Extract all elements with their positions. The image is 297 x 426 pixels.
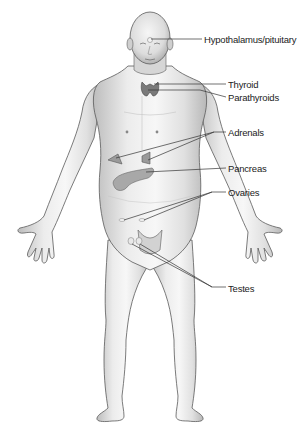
label-parathyroids: Parathyroids [228,93,279,103]
label-thyroid: Thyroid [228,80,258,90]
label-hypothalamus-pituitary: Hypothalamus/pituitary [204,35,296,45]
left-testis [128,238,134,245]
left-leg [97,240,150,422]
label-pancreas: Pancreas [228,164,267,174]
pituitary-gland [148,38,153,43]
label-ovaries: Ovaries [228,188,259,198]
left-ear [127,38,133,50]
right-ear [167,38,173,50]
left-arm [18,82,104,263]
label-testes: Testes [228,284,254,294]
right-testis [136,238,142,245]
right-leg [150,240,203,422]
label-adrenals: Adrenals [228,128,264,138]
endocrine-body-figure [0,0,297,426]
